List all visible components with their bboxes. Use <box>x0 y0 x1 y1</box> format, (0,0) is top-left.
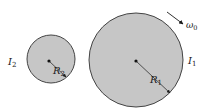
omega-label: ω0 <box>186 20 197 32</box>
disk-large: R1 I1 <box>89 13 196 107</box>
disk-small: R2 I2 <box>7 35 75 83</box>
diagram-canvas: R2 I2 R1 I1 ω0 <box>0 0 210 109</box>
disks-diagram: R2 I2 R1 I1 ω0 <box>0 0 210 109</box>
inertia-label-small: I2 <box>7 56 16 69</box>
rotation-arrow-icon <box>167 12 183 24</box>
inertia-label-large: I1 <box>187 55 196 68</box>
